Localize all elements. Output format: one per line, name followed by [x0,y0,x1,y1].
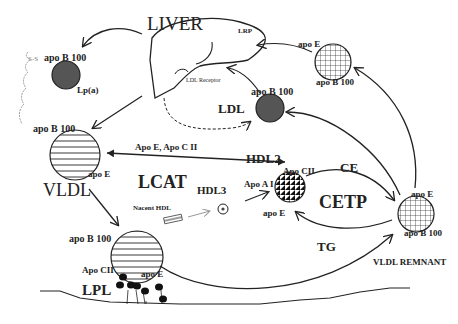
hdl2-label: HDL2 [246,152,281,165]
ldl-receptor-cup [175,69,188,74]
lower-apo-b-label: apo B 100 [69,234,111,244]
idl-apo-b-label: apo B 100 [316,78,354,87]
hdl-apo-ai-label: Apo A I [244,180,274,189]
remnant-apo-e-label: apo E [411,190,433,199]
lcat-label: LCAT [138,173,187,191]
ldl-apo-label: apo B 100 [251,87,293,97]
idl-apo-e-label: apo E [298,40,320,49]
tg-label: TG [317,240,336,253]
ldl-receptor-label: LDL Receptor [186,77,221,83]
nacent-hdl-disc [164,214,183,224]
nacent-hdl-label: Nacent HDL [133,205,171,212]
vldl-remnant-label: VLDL REMNANT [373,258,446,267]
arrow-lower-to-remnant [160,235,392,289]
lipoprotein-diagram [0,0,458,324]
ss-bond-label: S-S [28,56,38,63]
arrow-hdl3-to-hdl2 [245,192,268,201]
vldl-apo-b-label: apo B 100 [33,124,75,134]
arrow-nacent-to-hdl3 [188,211,210,217]
arrow-vldl-to-lower [89,189,118,225]
lpl-label: LPL [82,283,111,298]
hdl3-label: HDL3 [197,185,226,196]
liver-label: LIVER [147,14,203,33]
arrow-tg [296,212,392,228]
remnant-apo-b-label: apo B 100 [404,229,442,238]
vldl-apo-e-label: apo E [88,170,110,179]
liver-inner-notch [196,42,212,64]
ce-label: CE [340,161,358,174]
hdl2-particle [275,172,305,202]
transfer-label: Apo E, Apo C II [135,143,197,152]
lpa-particle [52,61,80,89]
hdl-apo-e-label: apo E [263,209,285,218]
lrp-label: LRP [238,28,252,35]
lower-apo-e-label: apo E [141,270,163,279]
lower-apo-cii-label: Apo CII [82,266,114,275]
ldl-particle [256,94,284,122]
vldl-label: VLDL [43,181,91,199]
hdl-apo-cii-label: Apo CII [283,167,315,176]
vldl-remnant-particle [398,196,434,232]
lpa-apo-label: apo B 100 [44,53,86,63]
idl-top-particle [315,44,351,80]
arrow-liver-to-vldl [93,96,142,128]
arrow-liver-to-lpa [83,29,142,46]
cetp-label: CETP [319,193,367,211]
ldl-label: LDL [218,102,245,115]
lpa-label: Lp(a) [77,86,99,95]
